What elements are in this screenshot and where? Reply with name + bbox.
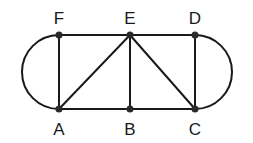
node-label-C: C xyxy=(189,120,201,139)
edge-E-C xyxy=(130,35,195,109)
labels-group: FEDABC xyxy=(53,9,201,139)
node-F xyxy=(56,32,63,39)
node-E xyxy=(127,32,134,39)
edge-D-C-arc-right xyxy=(195,35,232,109)
node-label-A: A xyxy=(53,120,65,139)
node-C xyxy=(192,106,199,113)
node-label-F: F xyxy=(54,9,64,28)
edge-A-E xyxy=(59,35,130,109)
edges-group xyxy=(22,35,232,109)
graph-diagram: FEDABC xyxy=(0,0,253,143)
node-label-B: B xyxy=(124,120,135,139)
node-A xyxy=(56,106,63,113)
nodes-group xyxy=(56,32,199,113)
node-label-E: E xyxy=(124,9,135,28)
node-B xyxy=(127,106,134,113)
node-D xyxy=(192,32,199,39)
edge-F-A-arc-left xyxy=(22,35,59,109)
node-label-D: D xyxy=(189,9,201,28)
